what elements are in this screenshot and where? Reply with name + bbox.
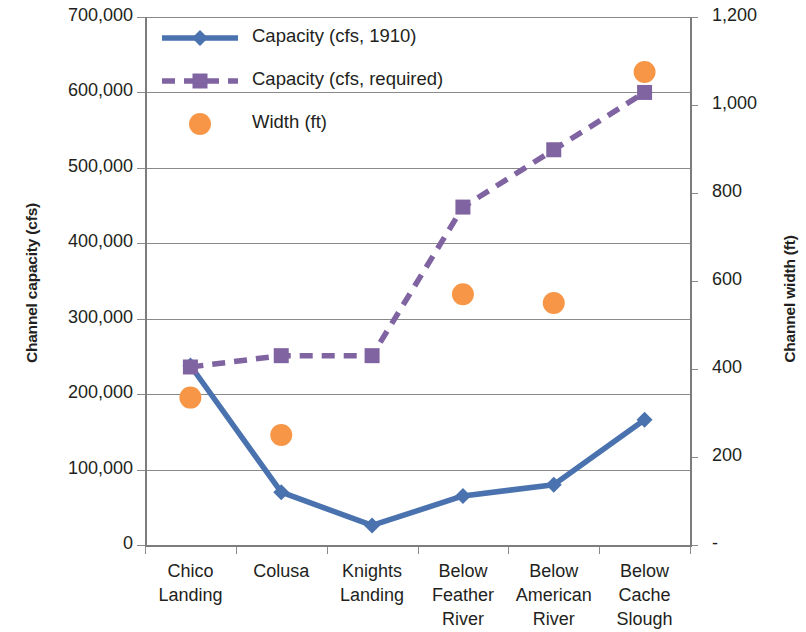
legend-label: Width (ft) [252,111,327,133]
chart-legend: Capacity (cfs, 1910)Capacity (cfs, requi… [160,22,490,137]
data-point [637,85,652,100]
data-point [364,517,380,533]
data-point [546,142,561,157]
data-point [274,348,289,363]
series-capacity-cfs-1910 [182,357,652,533]
legend-label: Capacity (cfs, 1910) [252,25,417,47]
data-point [455,200,470,215]
chart-container: Channel capacity (cfs) Channel width (ft… [0,0,806,632]
data-point [365,348,380,363]
data-point [634,61,656,83]
legend-label: Capacity (cfs, required) [252,68,443,90]
data-point [455,488,471,504]
data-point [452,283,474,305]
legend-marker [189,113,211,135]
data-point [183,359,198,374]
legend-marker [192,30,208,46]
data-point [270,424,292,446]
data-point [179,387,201,409]
series-line [190,365,644,525]
data-point [543,292,565,314]
legend-marker [193,74,208,89]
